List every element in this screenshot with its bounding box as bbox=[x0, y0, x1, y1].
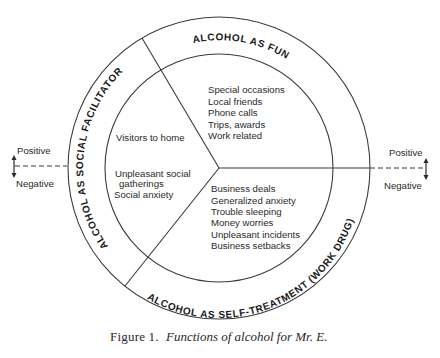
list-item: Work related bbox=[208, 130, 262, 141]
list-item: gatherings bbox=[119, 178, 164, 189]
list-item: Business deals bbox=[211, 183, 276, 194]
list-item: Business setbacks bbox=[211, 240, 291, 251]
list-item: Generalized anxiety bbox=[211, 195, 296, 206]
list-item: Local friends bbox=[208, 96, 263, 107]
figure-caption: Figure 1. Functions of alcohol for Mr. E… bbox=[110, 329, 327, 344]
left-arrow-up-head-icon bbox=[12, 155, 17, 160]
list-item: Trips, awards bbox=[208, 119, 265, 130]
list-item: Special occasions bbox=[208, 84, 285, 95]
list-item: Trouble sleeping bbox=[211, 206, 282, 217]
list-item: Money worries bbox=[211, 217, 274, 228]
right-arrow-up-head-icon bbox=[424, 158, 429, 163]
figure-label: Figure 1. bbox=[110, 329, 159, 344]
ring-label-social: ALCOHOL AS SOCIAL FACILITATOR bbox=[74, 65, 125, 252]
left-positive-label: Positive bbox=[17, 145, 51, 156]
list-item: Social anxiety bbox=[114, 189, 173, 200]
right-arrow-down-head-icon bbox=[424, 175, 429, 180]
sector-fun-list: Special occasions Local friends Phone ca… bbox=[208, 84, 285, 141]
list-item: Phone calls bbox=[208, 107, 258, 118]
right-positive-label: Positive bbox=[389, 147, 423, 158]
figure-title: Functions of alcohol for Mr. E. bbox=[165, 329, 327, 344]
list-item: Visitors to home bbox=[116, 132, 185, 143]
functions-of-alcohol-diagram: Positive Negative Positive Negative ALCO… bbox=[0, 0, 440, 358]
list-item: Unpleasant incidents bbox=[211, 229, 300, 240]
right-negative-label: Negative bbox=[384, 180, 422, 191]
left-negative-label: Negative bbox=[16, 178, 54, 189]
sector-self-treatment-list: Business deals Generalized anxiety Troub… bbox=[211, 183, 300, 251]
sector-social-list: Visitors to home Unpleasant social gathe… bbox=[114, 132, 191, 200]
